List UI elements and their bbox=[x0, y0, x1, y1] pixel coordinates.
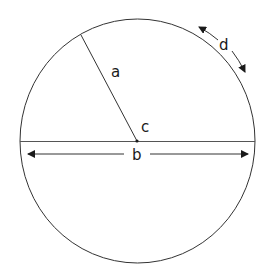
circumference-arrow-upper bbox=[199, 27, 218, 40]
circle-diagram: a c b d bbox=[0, 0, 267, 277]
circumference-arrow-lower bbox=[232, 51, 245, 72]
center-label: c bbox=[141, 118, 149, 136]
radius-line bbox=[81, 35, 137, 141]
diameter-label: b bbox=[132, 146, 142, 164]
radius-label: a bbox=[111, 63, 120, 81]
center-point bbox=[135, 139, 138, 142]
circumference-label: d bbox=[219, 36, 229, 54]
